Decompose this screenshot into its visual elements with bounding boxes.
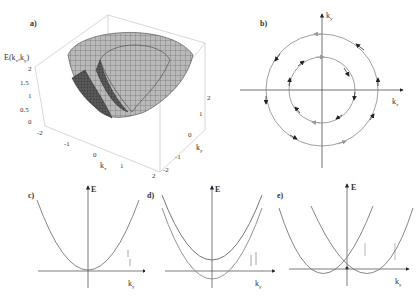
surface-plot: a) E(kx,ky) 2 1.5 1 0.5 0 -2 -1 0 1 2 kx…: [0, 0, 220, 180]
svg-text:2: 2: [207, 94, 211, 102]
panel-c-label: c): [28, 191, 35, 200]
x-axis-label: kx: [100, 161, 107, 171]
svg-text:-1: -1: [175, 153, 181, 161]
ky-label: ky: [255, 279, 262, 289]
svg-text:1.5: 1.5: [20, 79, 29, 87]
svg-text:2: 2: [28, 65, 32, 73]
y-axis-label: ky: [196, 143, 203, 153]
kx-label: kx: [392, 97, 399, 107]
svg-text:0: 0: [188, 131, 192, 139]
z-ticks: 2 1.5 1 0.5 0: [20, 65, 32, 126]
svg-text:0: 0: [93, 151, 97, 159]
y-ticks: -2 -1 0 1 2: [163, 94, 211, 174]
spin-arrows: [251, 252, 256, 266]
spin-down-band: [279, 206, 373, 274]
panel-a-3d-surface: a) E(kx,ky) 2 1.5 1 0.5 0 -2 -1 0 1 2 kx…: [0, 0, 220, 180]
ky-label: ky: [326, 11, 333, 21]
svg-text:1: 1: [120, 162, 124, 170]
panel-a-label: a): [30, 19, 37, 28]
svg-text:2: 2: [152, 172, 156, 180]
svg-text:1: 1: [199, 110, 203, 118]
svg-text:0: 0: [28, 118, 32, 126]
e-label: E: [215, 185, 220, 194]
svg-text:0.5: 0.5: [20, 106, 29, 114]
svg-text:-1: -1: [64, 140, 70, 148]
spin-arrows: [128, 250, 130, 266]
svg-text:1: 1: [28, 92, 32, 100]
x-ticks: -2 -1 0 1 2: [37, 129, 156, 180]
panel-d-label: d): [147, 191, 154, 200]
e-label: E: [91, 185, 96, 194]
z-axis-label: E(kx,ky): [4, 53, 30, 63]
ky-label: ky: [395, 277, 402, 287]
ky-label: ky: [128, 279, 135, 289]
panel-b-label: b): [260, 19, 267, 28]
panel-d-dispersion: d) E ky: [145, 180, 275, 297]
svg-text:-2: -2: [163, 166, 169, 174]
crossing-point: [345, 266, 348, 269]
svg-text:-2: -2: [37, 129, 43, 137]
panel-e-dispersion: e) E ky: [275, 180, 419, 297]
panel-b-spin-texture: b) ky kx: [220, 0, 419, 180]
panel-e-label: e): [277, 191, 284, 200]
spin-up-band: [311, 206, 413, 274]
e-label: E: [351, 183, 356, 192]
panel-c-dispersion: c) E ky: [0, 180, 145, 297]
